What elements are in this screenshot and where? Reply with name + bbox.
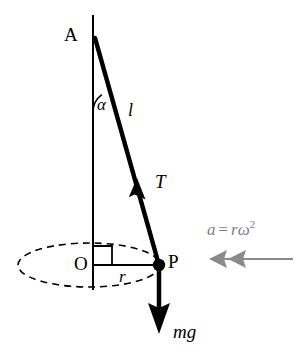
accel-equals-sign: = — [216, 220, 232, 239]
tension-arrowhead — [129, 178, 146, 200]
right-angle-marker — [93, 246, 112, 265]
accel-exponent: 2 — [250, 218, 256, 230]
label-center-o: O — [74, 254, 88, 273]
label-angle-alpha: α — [97, 96, 106, 113]
pendulum-string — [95, 38, 159, 265]
label-string-length: l — [128, 101, 133, 119]
label-bob-p: P — [168, 252, 179, 271]
conical-pendulum-diagram: A α l T O r P mg a=rω2 — [0, 0, 300, 359]
accel-symbol: a — [207, 220, 216, 239]
label-tension: T — [155, 172, 166, 191]
diagram-canvas — [0, 0, 300, 359]
bob-point-marker — [153, 259, 165, 271]
label-acceleration-equation: a=rω2 — [207, 219, 255, 238]
label-radius: r — [119, 268, 126, 285]
label-weight-mg: mg — [173, 322, 196, 341]
label-pivot-a: A — [64, 25, 78, 44]
accel-expression: rω — [231, 220, 250, 239]
